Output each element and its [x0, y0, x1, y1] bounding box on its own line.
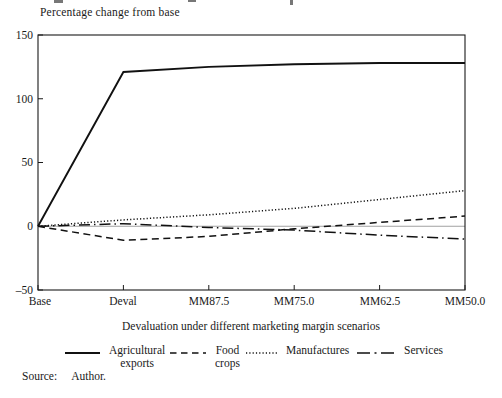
x-tick-label: Base	[5, 295, 75, 308]
source-note: Source:Author.	[22, 370, 106, 382]
chart-legend: Agricultural exports Food crops Manufact…	[0, 344, 502, 372]
dashdot-line-swatch-icon	[357, 347, 395, 359]
line-chart-plot	[0, 0, 502, 398]
source-value: Author.	[71, 370, 106, 382]
legend-label: Agricultural exports	[109, 344, 165, 369]
legend-label: Manufactures	[286, 344, 349, 357]
figure-page: Percentage change from base 150 100 50 0…	[0, 0, 502, 398]
legend-label-line1: Manufactures	[286, 344, 349, 357]
solid-line-swatch-icon	[65, 347, 100, 359]
series-line-agricultural-exports	[38, 63, 465, 226]
x-tick-label: MM75.0	[259, 295, 329, 308]
y-tick-label: 50	[5, 155, 33, 169]
x-axis-title: Devaluation under different marketing ma…	[0, 320, 502, 332]
x-tick-label: MM50.0	[430, 295, 500, 308]
y-tick-label: 150	[5, 28, 33, 42]
legend-item-services: Services	[357, 344, 443, 359]
series-line-manufactures	[38, 191, 465, 227]
x-tick-label: MM87.5	[174, 295, 244, 308]
legend-label-line2: crops	[215, 357, 240, 370]
legend-label-line2: exports	[109, 357, 165, 370]
legend-item-food-crops: Food crops	[170, 344, 240, 369]
legend-label-line1: Agricultural	[109, 344, 165, 357]
legend-item-manufactures: Manufactures	[246, 344, 349, 359]
legend-label: Services	[404, 344, 443, 357]
legend-item-agricultural-exports: Agricultural exports	[65, 344, 165, 369]
plot-frame	[38, 35, 465, 290]
legend-label-line1: Services	[404, 344, 443, 357]
legend-label-line1: Food	[215, 344, 240, 357]
dotted-line-swatch-icon	[246, 347, 277, 359]
y-tick-label: 100	[5, 92, 33, 106]
source-label: Source:	[22, 370, 57, 382]
x-tick-label: MM62.5	[345, 295, 415, 308]
y-tick-label: 0	[5, 219, 33, 233]
x-tick-label: Deval	[88, 295, 158, 308]
legend-label: Food crops	[215, 344, 240, 369]
dashed-line-swatch-icon	[170, 347, 206, 359]
